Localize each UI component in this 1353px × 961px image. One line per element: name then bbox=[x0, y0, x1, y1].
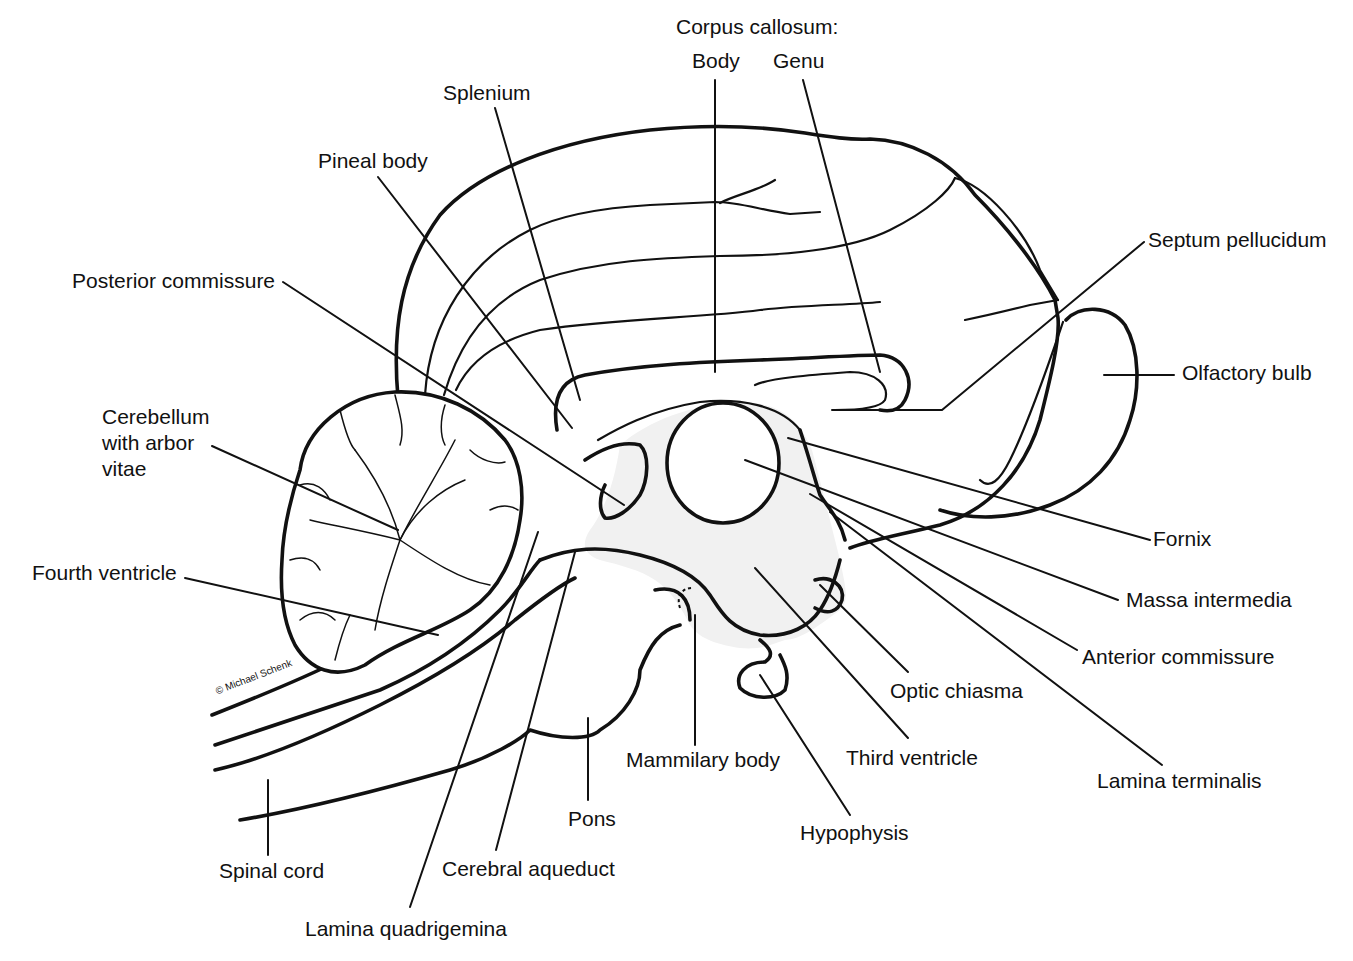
label-body: Body bbox=[692, 48, 740, 74]
label-third-ventricle: Third ventricle bbox=[846, 745, 978, 771]
massa-intermedia-shape bbox=[667, 403, 779, 523]
label-anterior-commissure: Anterior commissure bbox=[1082, 644, 1275, 670]
label-pons: Pons bbox=[568, 806, 616, 832]
label-fornix: Fornix bbox=[1153, 526, 1211, 552]
cerebellum-shape bbox=[281, 392, 522, 672]
label-septum-pellucidum: Septum pellucidum bbox=[1148, 227, 1327, 253]
label-lamina-terminalis: Lamina terminalis bbox=[1097, 768, 1262, 794]
label-pineal-body: Pineal body bbox=[318, 148, 428, 174]
label-splenium: Splenium bbox=[443, 80, 531, 106]
label-mammilary-body: Mammilary body bbox=[626, 747, 780, 773]
label-optic-chiasma: Optic chiasma bbox=[890, 678, 1023, 704]
label-fourth-ventricle: Fourth ventricle bbox=[32, 560, 177, 586]
label-cerebral-aqueduct: Cerebral aqueduct bbox=[442, 856, 615, 882]
label-hypophysis: Hypophysis bbox=[800, 820, 909, 846]
label-posterior-commissure: Posterior commissure bbox=[72, 268, 275, 294]
label-genu: Genu bbox=[773, 48, 824, 74]
label-lamina-quadrigemina: Lamina quadrigemina bbox=[305, 916, 507, 942]
label-cerebellum: Cerebellum with arbor vitae bbox=[102, 404, 209, 482]
olfactory-bulb-shape bbox=[940, 309, 1137, 517]
label-spinal-cord: Spinal cord bbox=[219, 858, 324, 884]
label-olfactory-bulb: Olfactory bulb bbox=[1182, 360, 1312, 386]
label-corpus-callosum-heading: Corpus callosum: bbox=[676, 14, 838, 40]
label-massa-intermedia: Massa intermedia bbox=[1126, 587, 1292, 613]
